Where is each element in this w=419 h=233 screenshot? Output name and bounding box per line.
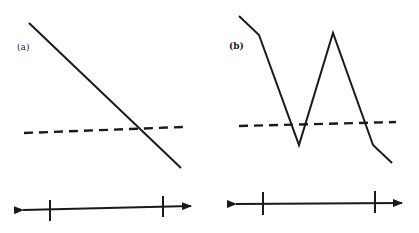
panel-a bbox=[23, 23, 191, 221]
panel-a-number-line bbox=[23, 206, 191, 210]
panel-b-label: (b) bbox=[229, 42, 244, 51]
panel-b-dashed-threshold-line bbox=[239, 122, 396, 126]
diagram-canvas bbox=[0, 0, 419, 233]
panel-b bbox=[236, 16, 402, 215]
panel-a-label: (a) bbox=[17, 43, 29, 52]
panel-b-number-line bbox=[236, 203, 402, 204]
panel-a-solid-line bbox=[29, 23, 181, 168]
figure: (a) (b) bbox=[0, 0, 419, 233]
panel-a-dashed-threshold-line bbox=[24, 127, 183, 133]
panel-b-solid-line bbox=[239, 16, 392, 163]
